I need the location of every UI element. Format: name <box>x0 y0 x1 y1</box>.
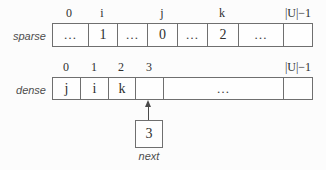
sparse-array-label: sparse <box>0 29 46 43</box>
next-label: next <box>128 150 170 162</box>
sparse-index-j: j <box>160 6 163 20</box>
dense-cell-0: j <box>53 78 81 99</box>
dense-index-3: 3 <box>146 60 152 74</box>
dense-index-0: 0 <box>63 60 69 74</box>
dense-cell-3 <box>136 78 164 99</box>
sparse-index-0: 0 <box>66 6 72 20</box>
dense-cell-2: k <box>109 78 136 99</box>
next-value-box: 3 <box>135 120 163 148</box>
sparse-index-k: k <box>219 6 225 20</box>
dense-cell-ellipsis: … <box>164 78 284 99</box>
sparse-cell-i: 1 <box>89 24 118 46</box>
sparse-index-last: |U|−1 <box>285 6 311 20</box>
next-value: 3 <box>146 126 153 142</box>
dense-array: j i k … <box>52 77 313 100</box>
sparse-cell-k: 2 <box>208 24 239 46</box>
dense-cell-1: i <box>81 78 109 99</box>
arrow-up-icon <box>145 100 151 107</box>
next-pointer-arrow-line <box>148 106 149 120</box>
sparse-cell-last <box>284 24 312 46</box>
dense-array-label: dense <box>0 83 46 97</box>
sparse-array: … 1 … 0 … 2 … <box>52 23 313 47</box>
dense-index-1: 1 <box>91 60 97 74</box>
dense-index-2: 2 <box>118 60 124 74</box>
sparse-cell-ellipsis: … <box>118 24 148 46</box>
sparse-cell-ellipsis: … <box>178 24 208 46</box>
sparse-cell-j: 0 <box>148 24 178 46</box>
sparse-set-diagram: sparse 0 i j k |U|−1 … 1 … 0 … 2 … dense… <box>0 0 326 170</box>
sparse-index-i: i <box>100 6 103 20</box>
dense-cell-last <box>284 78 312 99</box>
dense-index-last: |U|−1 <box>285 60 311 74</box>
sparse-cell-ellipsis: … <box>239 24 284 46</box>
sparse-cell-ellipsis: … <box>53 24 89 46</box>
